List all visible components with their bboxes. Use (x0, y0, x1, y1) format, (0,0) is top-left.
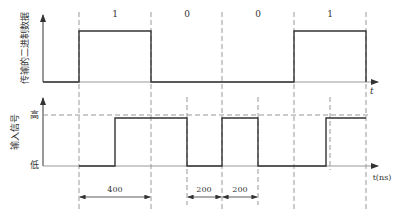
top-chart (43, 15, 378, 82)
dim-label-400: 400 (107, 185, 122, 194)
binary-data-waveform (43, 31, 366, 82)
bit-label-3: 0 (255, 9, 261, 19)
bit-boundaries (79, 12, 366, 210)
bottom-x-label: t(ns) (373, 173, 392, 182)
bit-label-4: 1 (327, 9, 333, 19)
bottom-chart (43, 98, 378, 166)
top-y-label: 传输的二进制数据 (19, 12, 30, 84)
top-x-label: t (370, 86, 374, 96)
bottom-y-label: 输入信号 (9, 114, 20, 150)
timing-diagram: 1 0 0 1 t t(ns) 传输的二进制数据 输入信号 高 低 400 20… (0, 0, 407, 214)
bit-label-1: 1 (112, 9, 118, 19)
dim-label-200b: 200 (232, 185, 247, 194)
low-label: 低 (30, 159, 39, 170)
high-label: 高 (30, 109, 39, 120)
bit-label-2: 0 (184, 9, 190, 19)
input-signal-waveform (79, 118, 366, 166)
dim-label-200a: 200 (196, 185, 211, 194)
